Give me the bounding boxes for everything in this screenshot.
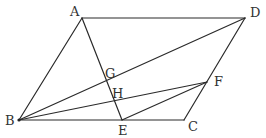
label-a: A [69, 4, 80, 19]
segment-ae [82, 18, 122, 120]
label-e: E [118, 123, 128, 138]
parallelogram-diagram: A D B C E F G H [0, 0, 266, 138]
segments [19, 18, 245, 120]
segment-bd [19, 18, 245, 120]
labels: A D B C E F G H [5, 4, 260, 138]
label-h: H [112, 86, 123, 101]
vertex-b-dot [17, 118, 20, 121]
label-b: B [5, 113, 15, 128]
label-g: G [105, 66, 115, 81]
segment-ab [19, 18, 82, 120]
label-d: D [250, 5, 260, 20]
label-c: C [188, 119, 198, 134]
label-f: F [214, 74, 223, 89]
segment-ef [122, 82, 207, 120]
segment-dc [184, 18, 245, 120]
